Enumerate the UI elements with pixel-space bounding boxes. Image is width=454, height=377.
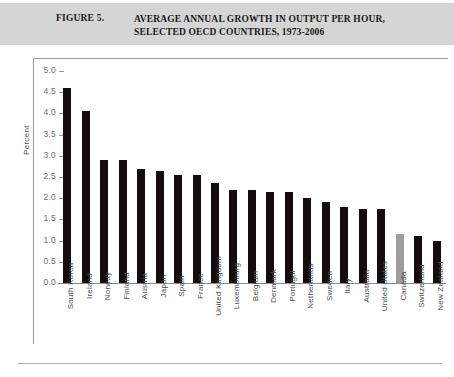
category-slot: Spain xyxy=(168,284,186,374)
y-tick-label: 5.0 xyxy=(44,65,56,75)
category-label: Austria xyxy=(140,273,149,299)
category-slot: Denmark xyxy=(260,284,278,374)
category-slot: United Kingdom xyxy=(205,284,223,374)
bar-slot xyxy=(335,71,353,283)
y-tick-label: 1.0 xyxy=(44,235,56,245)
category-slot: Belgium xyxy=(242,284,260,374)
category-slot: United States xyxy=(371,284,389,374)
y-tick-label: 3.0 xyxy=(44,150,56,160)
category-slot: Luxembourg xyxy=(223,284,241,374)
category-label: Italy xyxy=(343,278,352,294)
bar-slot xyxy=(390,71,408,283)
category-label: South Korea xyxy=(66,263,75,310)
y-tick-label: 0.0 xyxy=(44,277,56,287)
category-slot: Norway xyxy=(94,284,112,374)
category-label: Sweden xyxy=(325,271,334,301)
category-label: Luxembourg xyxy=(232,263,241,309)
y-tick-label: 2.5 xyxy=(44,171,56,181)
category-slot: Portugal xyxy=(279,284,297,374)
bar xyxy=(156,171,164,283)
y-tick-label: 4.0 xyxy=(44,107,56,117)
bar xyxy=(174,175,182,283)
y-tick-label: 4.5 xyxy=(44,86,56,96)
bar-slot xyxy=(187,71,205,283)
category-label: Ireland xyxy=(85,273,94,299)
y-axis-title: Percent xyxy=(22,125,31,155)
footer-divider xyxy=(18,363,442,364)
bar-series xyxy=(58,71,446,283)
bar-slot xyxy=(317,71,335,283)
category-slot: Japan xyxy=(149,284,167,374)
category-slot: Australia xyxy=(353,284,371,374)
y-tick-label: 0.5 xyxy=(44,256,56,266)
category-slot: Canada xyxy=(389,284,407,374)
category-slot: France xyxy=(186,284,204,374)
y-tick-label: 3.5 xyxy=(44,129,56,139)
bar-slot xyxy=(372,71,390,283)
figure-title: AVERAGE ANNUAL GROWTH IN OUTPUT PER HOUR… xyxy=(134,13,436,38)
category-label: Japan xyxy=(159,275,168,298)
bar-slot xyxy=(150,71,168,283)
bar-slot xyxy=(409,71,427,283)
bar-slot xyxy=(76,71,94,283)
category-label: Canada xyxy=(399,271,408,300)
y-tick-label: 2.0 xyxy=(44,192,56,202)
bar-slot xyxy=(169,71,187,283)
bar xyxy=(193,175,201,283)
bar-slot xyxy=(261,71,279,283)
bar xyxy=(119,160,127,283)
figure-number: FIGURE 5. xyxy=(56,13,134,23)
category-label: Belgium xyxy=(251,271,260,301)
category-label: Portugal xyxy=(288,270,297,301)
bar xyxy=(63,88,71,283)
figure-header-band: FIGURE 5. AVERAGE ANNUAL GROWTH IN OUTPU… xyxy=(0,3,454,45)
bar-slot xyxy=(427,71,445,283)
category-slot: Austria xyxy=(131,284,149,374)
category-slot: Netherlands xyxy=(297,284,315,374)
y-tick-label: 1.5 xyxy=(44,213,56,223)
category-label: Denmark xyxy=(269,269,278,303)
category-label: France xyxy=(196,273,205,299)
category-label: Finland xyxy=(122,272,131,300)
bar xyxy=(82,111,90,283)
category-slot: Finland xyxy=(112,284,130,374)
category-label: Spain xyxy=(177,275,186,296)
bar-slot xyxy=(113,71,131,283)
bar xyxy=(137,169,145,283)
category-slot: Ireland xyxy=(75,284,93,374)
bar-slot xyxy=(224,71,242,283)
bar-slot xyxy=(132,71,150,283)
category-label: Netherlands xyxy=(306,263,315,308)
category-label: Australia xyxy=(362,270,371,303)
x-axis-category-labels: South KoreaIrelandNorwayFinlandAustriaJa… xyxy=(57,284,445,374)
bar xyxy=(248,190,256,283)
bar xyxy=(100,160,108,283)
bar xyxy=(340,207,348,283)
category-label: United States xyxy=(380,261,389,312)
category-label: Switzerland xyxy=(417,264,426,308)
category-label: United Kingdom xyxy=(214,256,223,316)
category-slot: Sweden xyxy=(316,284,334,374)
category-slot: Italy xyxy=(334,284,352,374)
bar-slot xyxy=(206,71,224,283)
bar-slot xyxy=(298,71,316,283)
bar-slot xyxy=(95,71,113,283)
category-slot: South Korea xyxy=(57,284,75,374)
category-label: New Zealand xyxy=(436,261,445,310)
bar-slot xyxy=(354,71,372,283)
bar-slot xyxy=(280,71,298,283)
bar-slot xyxy=(243,71,261,283)
plot-area xyxy=(58,71,446,283)
category-slot: Switzerland xyxy=(408,284,426,374)
bar-slot xyxy=(58,71,76,283)
category-slot: New Zealand xyxy=(426,284,444,374)
category-label: Norway xyxy=(103,272,112,300)
